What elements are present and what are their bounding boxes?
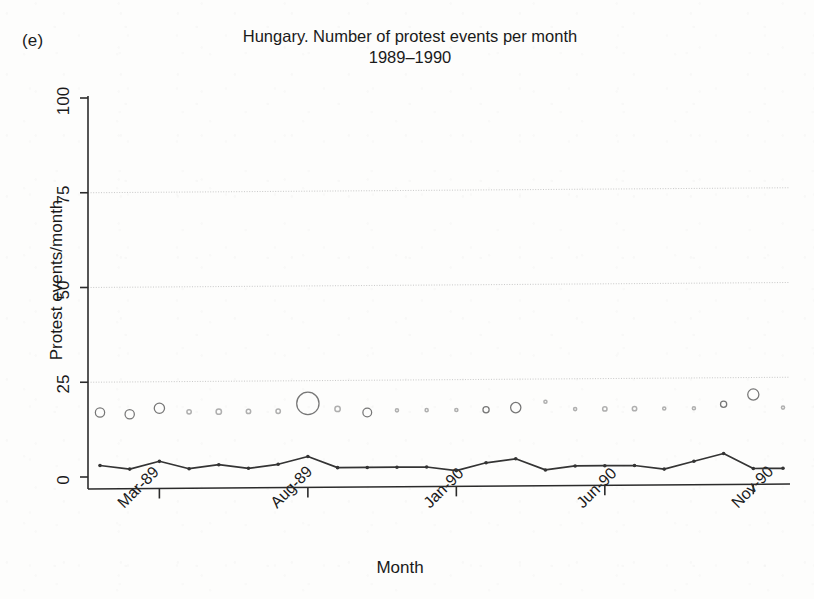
bubble-series [95,389,784,419]
plot-area [0,0,814,599]
line-series [98,452,785,473]
axis-lines [80,96,790,498]
chart-page: (e) Hungary. Number of protest events pe… [0,0,814,599]
gridlines [88,188,789,383]
